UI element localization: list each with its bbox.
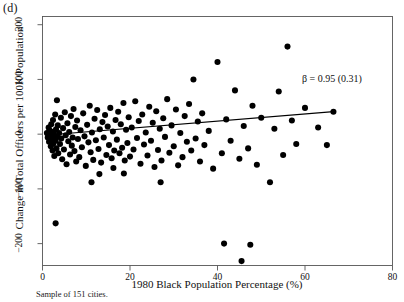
data-point <box>101 134 107 140</box>
data-point <box>136 118 142 124</box>
data-point <box>59 156 65 162</box>
data-point <box>126 114 132 120</box>
data-point <box>115 109 121 115</box>
data-point <box>210 166 216 172</box>
data-point <box>120 100 126 106</box>
data-point <box>95 146 101 152</box>
data-point <box>62 109 68 115</box>
data-point <box>71 148 77 154</box>
data-point <box>245 145 251 151</box>
y-tick-label: −200 <box>14 226 24 260</box>
data-point <box>221 241 227 247</box>
data-point <box>158 157 164 163</box>
x-tick-label: 0 <box>28 272 58 282</box>
data-point <box>289 117 295 123</box>
data-point <box>141 142 147 148</box>
data-point <box>232 87 238 93</box>
data-point <box>173 106 179 112</box>
data-point <box>315 125 321 131</box>
data-point <box>193 136 199 142</box>
data-point <box>85 139 91 145</box>
data-point <box>90 157 96 163</box>
data-point <box>89 129 95 135</box>
data-point <box>206 128 212 134</box>
data-point <box>64 120 70 126</box>
data-point <box>166 150 172 156</box>
data-point <box>70 134 76 140</box>
data-point <box>121 171 127 177</box>
data-point <box>139 111 145 117</box>
data-point <box>236 156 242 162</box>
data-point <box>66 129 72 135</box>
data-point <box>247 242 253 248</box>
data-point <box>271 126 277 132</box>
data-point <box>87 103 93 109</box>
data-point <box>175 162 181 168</box>
data-point <box>249 103 255 109</box>
data-point <box>158 179 164 185</box>
y-tick-label: 100 <box>14 61 24 95</box>
data-point <box>75 136 81 142</box>
data-point <box>150 120 156 126</box>
data-point <box>153 108 159 114</box>
data-point <box>130 146 136 152</box>
data-point <box>241 123 247 129</box>
data-point <box>164 96 170 102</box>
data-point <box>143 129 149 135</box>
data-point <box>72 124 78 130</box>
data-point <box>69 143 75 149</box>
data-point <box>177 130 183 136</box>
data-point <box>109 155 115 161</box>
data-point <box>57 141 63 147</box>
data-point <box>64 161 70 167</box>
x-tick-label: 80 <box>378 272 404 282</box>
data-point <box>324 142 330 148</box>
data-point <box>118 121 124 127</box>
data-point <box>160 115 166 121</box>
data-point <box>155 147 161 153</box>
data-point <box>267 179 273 185</box>
data-point <box>199 110 205 116</box>
scatter-plot-canvas <box>0 0 404 302</box>
data-point <box>276 88 282 94</box>
data-point <box>61 146 67 152</box>
data-point <box>94 107 100 113</box>
data-point <box>195 119 201 125</box>
data-point <box>162 134 168 140</box>
data-point <box>111 148 117 154</box>
data-point <box>56 130 62 136</box>
data-point <box>105 123 111 129</box>
data-point <box>184 139 190 145</box>
y-tick-label: 0 <box>14 116 24 150</box>
data-point <box>123 127 129 133</box>
data-point <box>201 142 207 148</box>
data-point <box>106 142 112 148</box>
data-point <box>92 116 98 122</box>
data-point <box>188 148 194 154</box>
data-point <box>144 152 150 158</box>
data-point <box>68 113 74 119</box>
data-point <box>116 150 122 156</box>
data-point <box>88 149 94 155</box>
data-point <box>50 117 56 123</box>
data-point <box>119 145 125 151</box>
figure-panel-d: (d) Change in Total Officers per 100K Po… <box>0 0 404 302</box>
data-point <box>55 122 61 128</box>
data-point <box>110 165 116 171</box>
data-point <box>293 141 299 147</box>
data-point <box>74 117 80 123</box>
data-point <box>114 137 120 143</box>
data-point <box>76 154 82 160</box>
data-point <box>99 119 105 125</box>
x-tick-label: 20 <box>115 272 145 282</box>
y-tick-label: 200 <box>14 7 24 41</box>
data-point <box>124 140 130 146</box>
data-point <box>239 258 245 264</box>
data-point <box>102 112 108 118</box>
data-points <box>44 44 337 265</box>
data-point <box>132 98 138 104</box>
data-point <box>88 179 94 185</box>
data-point <box>254 162 260 168</box>
data-point <box>151 164 157 170</box>
data-point <box>71 106 77 112</box>
